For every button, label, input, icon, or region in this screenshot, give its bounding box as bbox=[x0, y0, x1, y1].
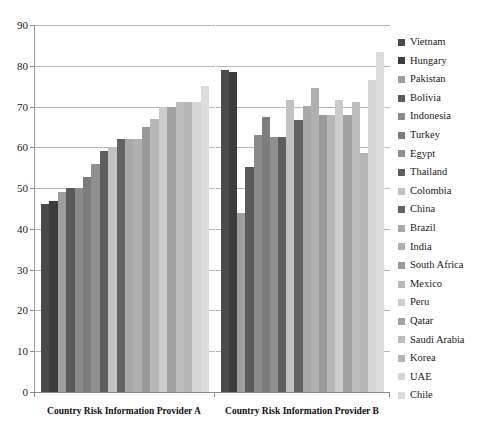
bar-groups bbox=[35, 25, 390, 392]
bar bbox=[368, 80, 376, 392]
legend-item-colombia[interactable]: Colombia bbox=[398, 182, 491, 201]
legend-item-india[interactable]: India bbox=[398, 238, 491, 257]
legend-item-brazil[interactable]: Brazil bbox=[398, 219, 491, 238]
y-tick-label-60: 60 bbox=[2, 142, 28, 153]
bar-group-provider-a bbox=[35, 25, 215, 392]
legend-item-chile[interactable]: Chile bbox=[398, 386, 491, 405]
legend-item-indonesia[interactable]: Indonesia bbox=[398, 107, 491, 126]
bar bbox=[237, 213, 245, 392]
bar bbox=[142, 127, 150, 392]
legend-swatch-icon bbox=[398, 150, 405, 157]
legend-label: Pakistan bbox=[410, 74, 446, 85]
bar bbox=[91, 164, 99, 392]
bar bbox=[229, 72, 237, 392]
legend-item-korea[interactable]: Korea bbox=[398, 349, 491, 368]
legend-label: India bbox=[410, 242, 432, 253]
legend-label: Indonesia bbox=[410, 111, 451, 122]
bar bbox=[343, 115, 351, 392]
y-tick-mark-90 bbox=[30, 25, 34, 26]
legend-item-saudi-arabia[interactable]: Saudi Arabia bbox=[398, 331, 491, 350]
legend-item-pakistan[interactable]: Pakistan bbox=[398, 70, 491, 89]
y-tick-mark-30 bbox=[30, 270, 34, 271]
legend-item-south-africa[interactable]: South Africa bbox=[398, 256, 491, 275]
legend-label: Hungary bbox=[410, 56, 447, 67]
legend-item-china[interactable]: China bbox=[398, 200, 491, 219]
bar bbox=[75, 188, 83, 392]
legend-swatch-icon bbox=[398, 262, 405, 269]
y-tick-mark-80 bbox=[30, 66, 34, 67]
bar bbox=[335, 100, 343, 392]
legend-label: Korea bbox=[410, 353, 436, 364]
legend-swatch-icon bbox=[398, 39, 405, 46]
bar bbox=[108, 147, 116, 392]
legend-item-qatar[interactable]: Qatar bbox=[398, 312, 491, 331]
bar bbox=[311, 88, 319, 392]
y-tick-label-0: 0 bbox=[2, 387, 28, 398]
bar bbox=[254, 135, 262, 392]
bar bbox=[150, 119, 158, 392]
legend-swatch-icon bbox=[398, 76, 405, 83]
legend-swatch-icon bbox=[398, 132, 405, 139]
bar bbox=[192, 102, 200, 392]
bar bbox=[319, 115, 327, 392]
legend-item-thailand[interactable]: Thailand bbox=[398, 163, 491, 182]
legend-item-egypt[interactable]: Egypt bbox=[398, 145, 491, 164]
legend-item-peru[interactable]: Peru bbox=[398, 293, 491, 312]
group-separator bbox=[215, 25, 216, 392]
bar bbox=[262, 117, 270, 392]
legend-label: Vietnam bbox=[410, 37, 446, 48]
bar bbox=[176, 102, 184, 392]
y-axis: 0102030405060708090 bbox=[0, 0, 28, 432]
bar bbox=[201, 86, 209, 392]
legend-swatch-icon bbox=[398, 392, 405, 399]
y-tick-mark-20 bbox=[30, 310, 34, 311]
x-label-provider-b: Country Risk Information Provider B bbox=[214, 400, 390, 422]
y-tick-label-90: 90 bbox=[2, 20, 28, 31]
y-tick-label-20: 20 bbox=[2, 305, 28, 316]
legend-label: South Africa bbox=[410, 260, 463, 271]
legend-item-turkey[interactable]: Turkey bbox=[398, 126, 491, 145]
legend-item-mexico[interactable]: Mexico bbox=[398, 275, 491, 294]
legend-swatch-icon bbox=[398, 57, 405, 64]
bar bbox=[100, 151, 108, 392]
bar bbox=[278, 137, 286, 392]
legend-swatch-icon bbox=[398, 188, 405, 195]
legend-swatch-icon bbox=[398, 169, 405, 176]
bar bbox=[58, 192, 66, 392]
legend-label: Chile bbox=[410, 390, 433, 401]
y-tick-label-30: 30 bbox=[2, 264, 28, 275]
plot-area bbox=[34, 25, 390, 392]
bar-chart: 0102030405060708090 Country Risk Informa… bbox=[0, 0, 491, 432]
bar bbox=[303, 106, 311, 392]
legend-item-uae[interactable]: UAE bbox=[398, 368, 491, 387]
y-tick-mark-60 bbox=[30, 147, 34, 148]
legend-item-hungary[interactable]: Hungary bbox=[398, 52, 491, 71]
plot-wrapper: 0102030405060708090 Country Risk Informa… bbox=[0, 0, 400, 432]
y-tick-label-80: 80 bbox=[2, 60, 28, 71]
legend-swatch-icon bbox=[398, 113, 405, 120]
legend-swatch-icon bbox=[398, 336, 405, 343]
y-tick-label-10: 10 bbox=[2, 346, 28, 357]
y-tick-label-40: 40 bbox=[2, 223, 28, 234]
legend-swatch-icon bbox=[398, 206, 405, 213]
x-axis-line bbox=[34, 392, 390, 393]
y-tick-label-50: 50 bbox=[2, 183, 28, 194]
legend-swatch-icon bbox=[398, 243, 405, 250]
y-tick-mark-10 bbox=[30, 351, 34, 352]
legend-swatch-icon bbox=[398, 95, 405, 102]
bar bbox=[125, 139, 133, 392]
bar bbox=[352, 102, 360, 392]
bar bbox=[159, 107, 167, 392]
legend-label: Saudi Arabia bbox=[410, 335, 465, 346]
bar bbox=[327, 115, 335, 392]
bar bbox=[294, 120, 302, 392]
legend-label: China bbox=[410, 204, 435, 215]
legend-label: Colombia bbox=[410, 186, 451, 197]
bar bbox=[117, 139, 125, 392]
legend-swatch-icon bbox=[398, 281, 405, 288]
legend-item-vietnam[interactable]: Vietnam bbox=[398, 33, 491, 52]
legend-label: Egypt bbox=[410, 149, 435, 160]
legend-item-bolivia[interactable]: Bolivia bbox=[398, 89, 491, 108]
bar bbox=[66, 188, 74, 392]
bar bbox=[133, 139, 141, 392]
